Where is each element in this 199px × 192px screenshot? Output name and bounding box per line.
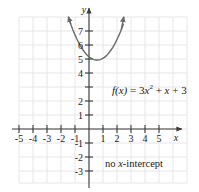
equation-term2-variable: x: [165, 84, 170, 96]
x-axis-label: x: [173, 132, 179, 143]
y-tick-label: 4: [78, 68, 83, 79]
y-tick-label: -3: [75, 166, 83, 177]
y-axis-label: y: [81, 4, 87, 15]
x-tick-label: -5: [15, 133, 23, 144]
equation-function-name: f(x): [112, 84, 127, 96]
parabola-curve: [68, 17, 123, 60]
y-tick-label: 1: [78, 110, 83, 121]
x-tick-label: -4: [29, 133, 37, 144]
x-tick-label: 1: [101, 133, 106, 144]
note-suffix: -intercept: [123, 158, 163, 169]
y-tick-label: 7: [78, 26, 83, 37]
x-tick-labels: -5 -4 -3 -2 -1 1 2 3 4 5: [15, 133, 162, 144]
y-tick-label: 6: [78, 40, 83, 51]
x-tick-label: 3: [129, 133, 134, 144]
equation-constant-term: 3: [181, 84, 187, 96]
y-tick-label: 5: [78, 54, 83, 65]
no-x-intercept-note: no x-intercept: [105, 158, 163, 169]
y-tick-label: -1: [75, 138, 83, 149]
x-tick-label: -3: [43, 133, 51, 144]
x-tick-label: 4: [143, 133, 148, 144]
y-tick-label: 2: [78, 96, 83, 107]
x-tick-label: 2: [115, 133, 120, 144]
equation-plus-2: +: [172, 84, 178, 96]
x-tick-label: -2: [57, 133, 65, 144]
x-tick-label: 5: [157, 133, 162, 144]
y-tick-label: -2: [75, 152, 83, 163]
function-equation-label: f(x) = 3x2 + x + 3: [112, 84, 187, 96]
note-prefix: no: [105, 158, 118, 169]
equation-plus-1: +: [156, 84, 162, 96]
graph-figure: -5 -4 -3 -2 -1 1 2 3 4 5 7 6 5 4 2 1 -1 …: [0, 0, 199, 192]
coordinate-plane-svg: -5 -4 -3 -2 -1 1 2 3 4 5 7 6 5 4 2 1 -1 …: [0, 0, 199, 192]
equation-equals: =: [130, 84, 136, 96]
equation-term1-exponent: 2: [149, 83, 153, 91]
